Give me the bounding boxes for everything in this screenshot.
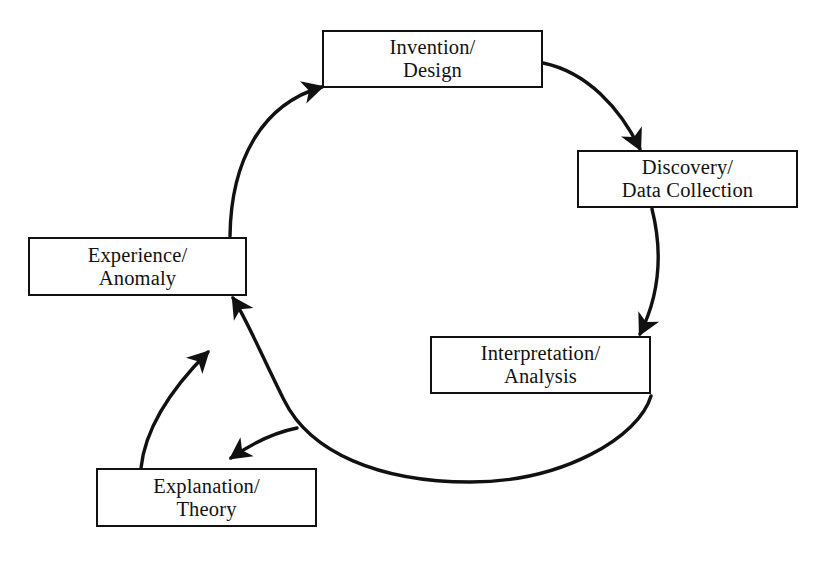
arrow-interpretation-to-explanation xyxy=(231,428,297,458)
node-discovery-data-collection-line2: Data Collection xyxy=(622,179,753,202)
node-invention-design[interactable]: Invention/ Design xyxy=(322,30,543,88)
node-invention-design-line1: Invention/ xyxy=(390,36,476,59)
arrow-experience-to-invention xyxy=(230,87,322,236)
node-invention-design-line2: Design xyxy=(403,59,462,82)
node-experience-anomaly-line1: Experience/ xyxy=(88,244,188,267)
node-interpretation-analysis-line1: Interpretation/ xyxy=(481,342,601,365)
arrow-explanation-to-experience xyxy=(141,352,208,468)
node-explanation-theory[interactable]: Explanation/ Theory xyxy=(96,468,317,527)
arrow-discovery-to-interpretation xyxy=(640,209,658,334)
diagram-canvas: Invention/ Design Discovery/ Data Collec… xyxy=(0,0,818,570)
node-experience-anomaly[interactable]: Experience/ Anomaly xyxy=(28,237,247,296)
node-experience-anomaly-line2: Anomaly xyxy=(99,267,176,290)
node-discovery-data-collection-line1: Discovery/ xyxy=(642,156,733,179)
node-explanation-theory-line2: Theory xyxy=(176,498,236,521)
node-interpretation-analysis[interactable]: Interpretation/ Analysis xyxy=(430,336,651,394)
node-interpretation-analysis-line2: Analysis xyxy=(504,365,577,388)
node-discovery-data-collection[interactable]: Discovery/ Data Collection xyxy=(577,150,798,208)
node-explanation-theory-line1: Explanation/ xyxy=(153,475,260,498)
arrow-invention-to-discovery xyxy=(543,63,640,149)
